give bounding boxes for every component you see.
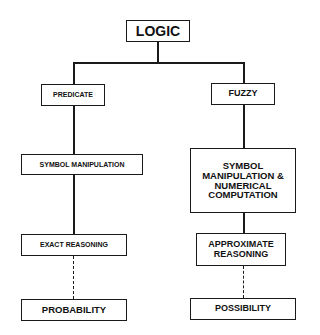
node-predicate-label: PREDICATE [53,91,93,98]
connector-fuzzy-to-symbolnum [243,105,245,148]
node-approximate-reasoning-label: APPROXIMATE REASONING [201,240,281,259]
node-logic-label: LOGIC [136,24,180,39]
node-probability: PROBABILITY [21,299,127,321]
connector-symbol-to-exact [73,175,75,234]
node-possibility-label: POSSIBILITY [215,304,271,313]
connector-right-to-fuzzy [243,62,245,83]
connector-left-to-predicate [73,62,75,84]
node-logic: LOGIC [126,20,190,42]
connector-horizontal-split [73,62,244,64]
connector-predicate-to-symbol [73,106,75,154]
connector-approx-to-possibility [243,266,244,298]
node-fuzzy-label: FUZZY [229,89,258,98]
connector-exact-to-probability [73,256,74,299]
node-approximate-reasoning: APPROXIMATE REASONING [196,233,286,266]
node-exact-reasoning-label: EXACT REASONING [40,241,108,248]
node-predicate: PREDICATE [41,84,105,106]
node-probability-label: PROBABILITY [42,305,106,315]
node-symbol-manipulation-label: SYMBOL MANIPULATION [40,161,125,168]
node-exact-reasoning: EXACT REASONING [21,234,127,256]
node-symbol-numerical-label: SYMBOL MANIPULATION & NUMERICAL COMPUTAT… [194,161,292,201]
node-symbol-numerical: SYMBOL MANIPULATION & NUMERICAL COMPUTAT… [190,148,296,213]
node-fuzzy: FUZZY [211,83,275,105]
connector-logic-stem [157,42,159,63]
node-possibility: POSSIBILITY [190,298,296,320]
node-symbol-manipulation: SYMBOL MANIPULATION [21,154,143,175]
connector-symbolnum-to-approx [243,213,245,233]
